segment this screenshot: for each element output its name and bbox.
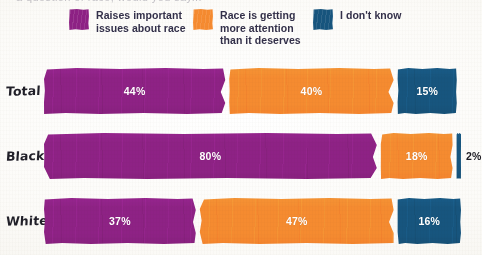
legend-label-too-much-attention: Race is getting more attention than it d… (220, 9, 301, 47)
chart-figure: a question of race, would you say... Rai… (0, 0, 482, 255)
bar-segment-dont-know[interactable]: 16% (398, 198, 461, 244)
chart-row: Total44%40%15% (0, 68, 482, 114)
bar-segment-too-much-attention[interactable]: 40% (229, 68, 393, 114)
bar-value-label: 47% (286, 215, 308, 227)
bar-value-label: 44% (124, 85, 146, 97)
legend-swatch-too-much-attention-icon (194, 10, 212, 29)
legend-item-raises-issues[interactable]: Raises important issues about race (70, 9, 194, 34)
bar-value-label: 18% (406, 150, 428, 162)
stacked-bar: 44%40%15% (44, 68, 465, 114)
legend-item-dont-know[interactable]: I don't know (314, 9, 434, 29)
stacked-bar: 80%18%2% (44, 133, 465, 179)
stacked-bar: 37%47%16% (44, 198, 465, 244)
bar-segment-dont-know[interactable]: 2% (457, 133, 461, 179)
legend-swatch-dont-know-icon (314, 10, 332, 29)
row-label-white: White (0, 197, 43, 244)
cropped-headline-text: a question of race, would you say... (16, 0, 202, 3)
chart-legend: Raises important issues about raceRace i… (70, 9, 434, 47)
row-label-black: Black (0, 132, 43, 179)
bar-value-label: 40% (301, 85, 323, 97)
bar-value-label: 2% (466, 150, 482, 162)
bar-value-label: 16% (418, 215, 440, 227)
bar-segment-raises-issues[interactable]: 37% (44, 198, 196, 244)
legend-label-dont-know: I don't know (340, 9, 401, 22)
bar-segment-too-much-attention[interactable]: 47% (200, 198, 394, 244)
row-label-total: Total (0, 67, 43, 114)
chart-plot-area: Total44%40%15%Black80%18%2%White37%47%16… (0, 62, 482, 255)
bar-value-label: 15% (416, 85, 438, 97)
bar-segment-dont-know[interactable]: 15% (398, 68, 457, 114)
bar-segment-too-much-attention[interactable]: 18% (381, 133, 453, 179)
bar-value-label: 37% (109, 215, 131, 227)
bar-value-label: 80% (200, 150, 222, 162)
bar-segment-raises-issues[interactable]: 44% (44, 68, 225, 114)
legend-item-too-much-attention[interactable]: Race is getting more attention than it d… (194, 9, 314, 47)
chart-row: White37%47%16% (0, 198, 482, 244)
bar-segment-fill (457, 133, 461, 179)
bar-segment-raises-issues[interactable]: 80% (44, 133, 377, 179)
chart-row: Black80%18%2% (0, 133, 482, 179)
cropped-headline-sliver: a question of race, would you say... (0, 0, 482, 5)
legend-swatch-raises-issues-icon (70, 10, 88, 29)
legend-label-raises-issues: Raises important issues about race (96, 9, 186, 34)
